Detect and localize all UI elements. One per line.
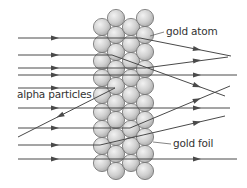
arrow-icon <box>193 119 202 126</box>
gold-atom <box>107 145 124 162</box>
gold-atom <box>136 26 153 43</box>
arrow-icon <box>51 52 59 57</box>
arrow-icon <box>51 72 59 77</box>
arrow-icon <box>192 82 201 90</box>
arrow-icon <box>51 65 59 70</box>
gold-atom <box>136 94 153 111</box>
arrow-icon <box>51 142 59 147</box>
gold-atom <box>136 162 153 179</box>
arrow-icon <box>51 156 59 161</box>
gold-atom <box>136 128 153 145</box>
arrow-icon <box>51 35 59 40</box>
arrow-icon <box>193 156 201 161</box>
arrow-icon <box>51 125 59 130</box>
gold-atom <box>136 77 153 94</box>
gold-atom <box>107 26 124 43</box>
gold-atom <box>107 43 124 60</box>
gold-atom <box>107 9 124 26</box>
arrow-icon <box>192 96 201 104</box>
arrow-icon <box>193 46 202 53</box>
arrow-icon <box>51 105 59 110</box>
gold-atom <box>107 77 124 94</box>
gold-atom-label: gold atom <box>166 25 217 37</box>
gold-foil-leader <box>153 142 171 144</box>
alpha-particles-label: alpha particles <box>17 88 92 100</box>
arrow-icon <box>193 105 201 110</box>
gold-atom <box>107 94 124 111</box>
gold-atom <box>136 43 153 60</box>
arrow-icon <box>55 112 64 120</box>
gold-foil-label: gold foil <box>173 137 213 149</box>
arrow-icon <box>193 72 201 77</box>
gold-atom <box>136 111 153 128</box>
gold-atom <box>107 111 124 128</box>
gold-atom <box>136 9 153 26</box>
gold-atom <box>136 145 153 162</box>
gold-atom <box>107 162 124 179</box>
